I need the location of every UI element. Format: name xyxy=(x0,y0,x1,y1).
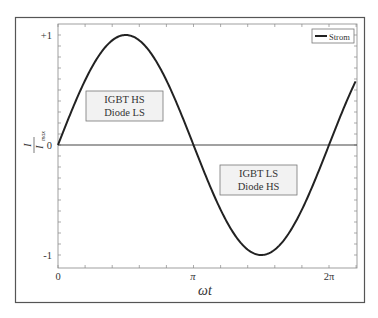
plot-area xyxy=(58,24,357,268)
x-axis-label: ωt xyxy=(198,283,213,298)
y-tick-label-0: 0 xyxy=(47,140,52,151)
annotation-igbt-hs-line1: IGBT HS xyxy=(104,94,145,105)
y-axis-label-denominator: I xyxy=(34,145,45,150)
annotation-igbt-hs: IGBT HS Diode LS xyxy=(86,91,163,121)
annotation-igbt-ls-line2: Diode HS xyxy=(238,181,280,192)
x-tick-label-pi: π xyxy=(190,271,196,282)
annotation-igbt-hs-line2: Diode LS xyxy=(104,107,145,118)
annotation-igbt-ls: IGBT LS Diode HS xyxy=(220,165,297,195)
x-tick-label-0: 0 xyxy=(55,271,60,282)
legend-label-strom: Strom xyxy=(329,32,350,42)
chart-figure: IGBT HS Diode LS IGBT LS Diode HS Strom … xyxy=(0,0,378,318)
legend: Strom xyxy=(312,29,354,43)
y-axis-label-numerator: I xyxy=(22,143,33,148)
annotation-igbt-ls-line1: IGBT LS xyxy=(239,168,278,179)
y-tick-label-minus1: -1 xyxy=(43,250,52,261)
x-tick-label-2pi: 2π xyxy=(324,271,335,282)
y-tick-label-plus1: +1 xyxy=(41,30,52,41)
y-axis-label-subscript: max xyxy=(40,131,46,141)
